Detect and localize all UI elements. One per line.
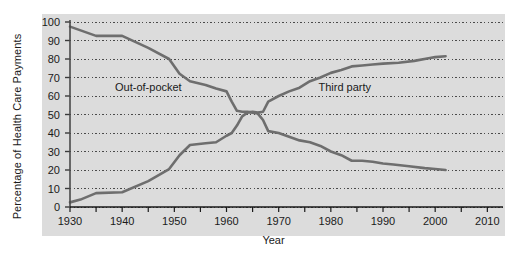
- y-tick-label: 90: [34, 36, 60, 47]
- y-tick-label: 70: [34, 73, 60, 84]
- y-tick-label: 40: [34, 128, 60, 139]
- y-tick-label: 100: [34, 17, 60, 28]
- x-tick-label: 1970: [259, 216, 299, 227]
- y-tick-label: 60: [34, 91, 60, 102]
- series-label-third-party: Third party: [318, 81, 371, 93]
- y-tick-label: 80: [34, 54, 60, 65]
- y-tick-label: 10: [34, 184, 60, 195]
- y-axis-label: Percentage of Health Care Payments: [6, 0, 28, 253]
- x-tick-label: 1980: [311, 216, 351, 227]
- y-tick-label: 50: [34, 110, 60, 121]
- x-tick-label: 1990: [363, 216, 403, 227]
- x-tick-label: 1940: [102, 216, 142, 227]
- x-tick-label: 2000: [415, 216, 455, 227]
- x-tick-label: 1930: [50, 216, 90, 227]
- gridlines: [70, 22, 503, 207]
- x-tick-label: 1960: [207, 216, 247, 227]
- x-tick-label: 2010: [467, 216, 507, 227]
- y-axis-label-container: Percentage of Health Care Payments: [6, 0, 28, 253]
- x-axis-ticks: [70, 207, 487, 212]
- y-tick-label: 0: [34, 202, 60, 213]
- x-axis-label: Year: [42, 234, 505, 246]
- chart-page: Percentage of Health Care Payments Year …: [0, 0, 530, 253]
- series-lines: [70, 27, 446, 203]
- y-tick-label: 30: [34, 147, 60, 158]
- x-tick-label: 1950: [154, 216, 194, 227]
- series-label-out-of-pocket: Out-of-pocket: [115, 81, 182, 93]
- y-tick-label: 20: [34, 165, 60, 176]
